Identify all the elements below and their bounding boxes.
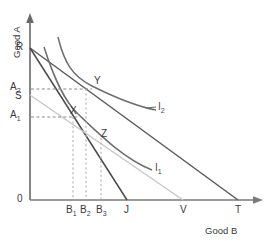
y-tick-a1: A1 xyxy=(10,110,21,122)
indifference-curve-i2 xyxy=(58,37,156,110)
point-label-z: Z xyxy=(101,129,107,139)
x-tick-b2-sub: 2 xyxy=(87,210,91,217)
curve-label-i1: I1 xyxy=(155,163,162,175)
indifference-curve-i1 xyxy=(44,47,152,170)
y-tick-a1-sub: 1 xyxy=(17,115,21,122)
budget-line-rj xyxy=(30,48,127,200)
indifference-curve-chart: Good A Good B 0 R A2 S A1 B1 B2 B3 J V T… xyxy=(0,0,271,241)
x-tick-b1: B1 xyxy=(66,205,77,217)
x-axis xyxy=(30,196,263,203)
x-tick-b3-main: B xyxy=(96,204,103,215)
curve-label-i2: I2 xyxy=(158,102,165,114)
x-tick-v: V xyxy=(180,205,187,215)
x-axis-title: Good B xyxy=(205,226,237,236)
x-tick-j: J xyxy=(124,205,129,215)
x-tick-b2-main: B xyxy=(80,204,87,215)
y-axis xyxy=(26,13,34,200)
x-tick-b3: B3 xyxy=(96,205,107,217)
y-tick-a1-main: A xyxy=(10,109,17,120)
x-tick-b2: B2 xyxy=(80,205,91,217)
y-tick-s: S xyxy=(15,91,22,101)
chart-canvas xyxy=(0,0,271,241)
leader-i2 xyxy=(146,107,156,108)
curve-label-i1-sub: 1 xyxy=(158,168,162,175)
y-tick-r: R xyxy=(16,42,23,52)
x-tick-b3-sub: 3 xyxy=(103,210,107,217)
curve-label-i2-sub: 2 xyxy=(161,107,165,114)
x-tick-b1-main: B xyxy=(66,204,73,215)
origin-label: 0 xyxy=(17,194,23,204)
point-label-y: Y xyxy=(94,76,101,86)
point-label-x: X xyxy=(70,106,77,116)
x-tick-t: T xyxy=(235,205,241,215)
x-tick-b1-sub: 1 xyxy=(73,210,77,217)
budget-line-rt xyxy=(30,48,238,200)
